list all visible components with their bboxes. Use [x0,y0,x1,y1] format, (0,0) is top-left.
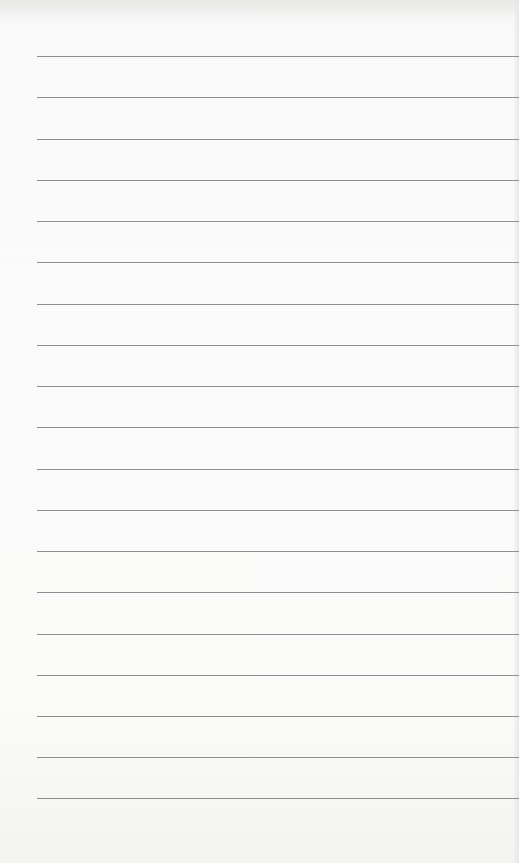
ruled-line [37,675,519,676]
right-edge-shadow [513,0,519,863]
ruled-line [37,345,519,346]
ruled-line [37,716,519,717]
ruled-line [37,180,519,181]
ruled-line [37,510,519,511]
ruled-line [37,469,519,470]
lined-paper-sheet [0,0,519,863]
ruled-line [37,304,519,305]
ruled-line [37,798,519,799]
ruled-line [37,757,519,758]
ruled-line [37,56,519,57]
ruled-line [37,262,519,263]
ruled-line [37,427,519,428]
ruled-line [37,139,519,140]
top-edge-shadow [0,0,519,18]
ruled-line [37,386,519,387]
ruled-line [37,221,519,222]
ruled-line [37,551,519,552]
ruled-line [37,592,519,593]
ruled-line [37,634,519,635]
ruled-line [37,97,519,98]
